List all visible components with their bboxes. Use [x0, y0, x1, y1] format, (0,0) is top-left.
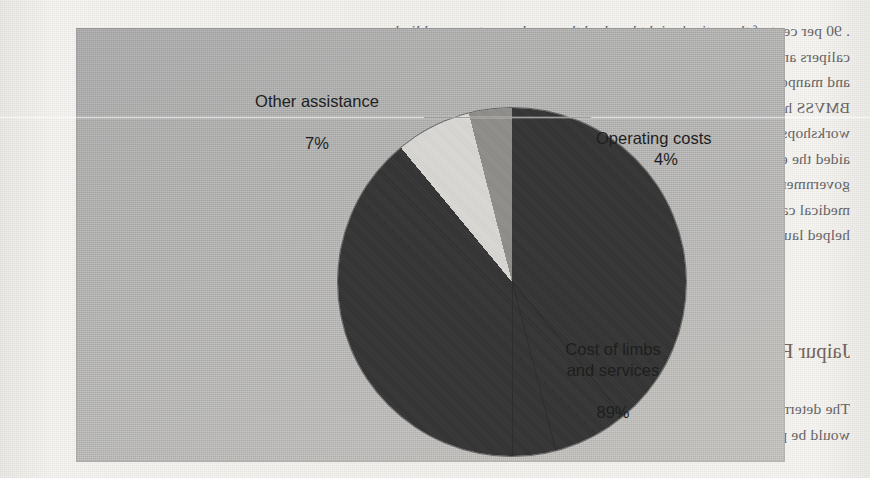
slice-label-other-assistance: Other assistance 7% — [202, 70, 432, 154]
slice-label-text: Cost of limbs and services — [565, 340, 660, 379]
slice-value-text: 7% — [305, 134, 329, 152]
slice-value-text: 89% — [596, 403, 629, 421]
slice-label-text: Other assistance — [255, 92, 379, 110]
figure-plate: Other assistance 7% Operating costs 4% C… — [76, 28, 785, 462]
slice-label-cost-of-limbs: Cost of limbs and services 89% — [513, 318, 713, 423]
slice-label-operating-costs: Operating costs 4% — [596, 107, 771, 191]
operating-costs-leader-line — [424, 117, 591, 118]
slice-label-text: Operating costs — [596, 129, 712, 147]
slice-value-text: 4% — [596, 149, 736, 170]
scanned-page: . 90 per cent of the nation's eight hund… — [0, 0, 870, 478]
